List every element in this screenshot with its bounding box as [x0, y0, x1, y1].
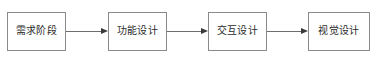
flow-node-label: 视觉设计 [318, 25, 359, 38]
flow-connector-2 [167, 12, 208, 51]
flow-node-requirement-stage[interactable]: 需求阶段 [7, 12, 66, 51]
flow-node-label: 功能设计 [117, 25, 158, 38]
flowchart-sequence: 需求阶段 功能设计 交互设计 视觉设计 [0, 0, 379, 62]
arrow-right-icon [301, 28, 308, 34]
connector-line [267, 31, 302, 32]
flowchart-canvas: 需求阶段 功能设计 交互设计 视觉设计 [0, 0, 379, 62]
connector-line [66, 31, 102, 32]
connector-line [167, 31, 202, 32]
flow-node-visual-design[interactable]: 视觉设计 [308, 12, 370, 51]
arrow-right-icon [201, 28, 208, 34]
flow-connector-1 [66, 12, 108, 51]
flow-node-function-design[interactable]: 功能设计 [108, 12, 167, 51]
arrow-right-icon [101, 28, 108, 34]
flow-node-label: 交互设计 [217, 25, 258, 38]
flow-connector-3 [267, 12, 308, 51]
flow-node-label: 需求阶段 [16, 25, 57, 38]
flow-node-interaction-design[interactable]: 交互设计 [208, 12, 267, 51]
